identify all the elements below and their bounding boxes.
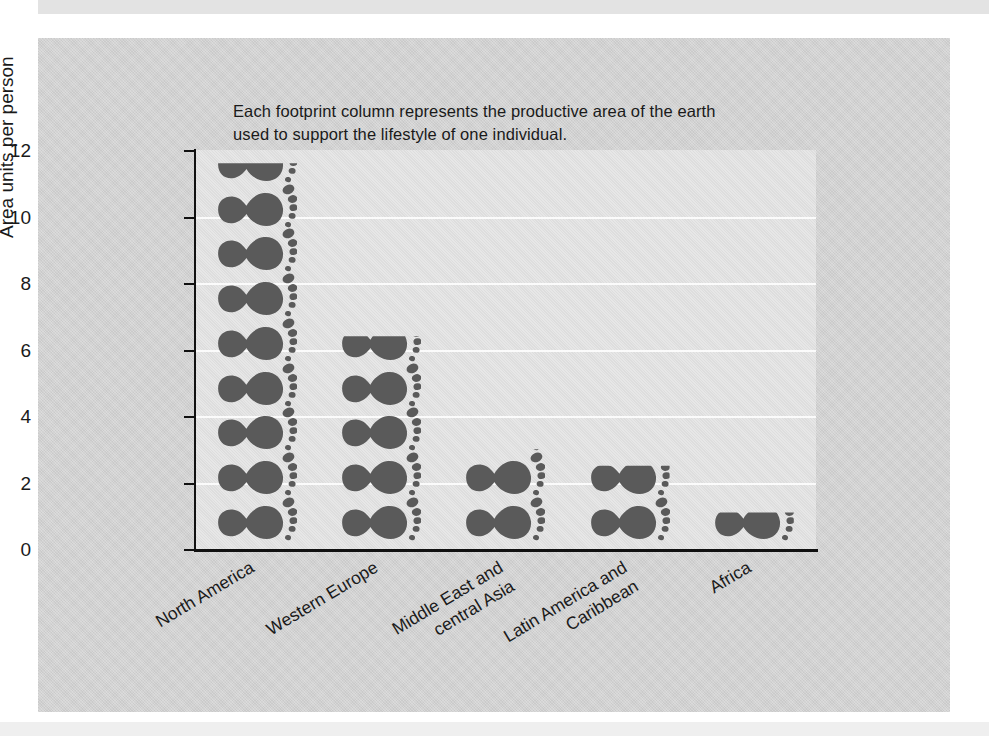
x-axis-line [194, 549, 818, 552]
plot-area [195, 150, 816, 549]
y-tick-label: 4 [20, 406, 38, 428]
footprint-icon [578, 451, 670, 504]
page-root: Each footprint column represents the pro… [0, 0, 989, 736]
figure-panel: Each footprint column represents the pro… [38, 38, 950, 712]
footprint-column [205, 150, 297, 549]
footprint-icon [453, 406, 545, 459]
footprint-column [578, 150, 670, 549]
y-tick-label: 0 [20, 539, 38, 561]
footprint-icon [702, 496, 794, 549]
footprint-chart: Area units per person 024681012 North Am… [38, 38, 950, 712]
top-decorative-band [38, 0, 989, 14]
footprint-column [702, 150, 794, 549]
footprint-column [329, 150, 421, 549]
footprint-icon [329, 317, 421, 370]
y-tick-label: 12 [10, 140, 38, 162]
footprint-column [453, 150, 545, 549]
y-tick-label: 6 [20, 340, 38, 362]
y-tick-label: 8 [20, 273, 38, 295]
y-tick-label: 10 [10, 207, 38, 229]
y-tick-label: 2 [20, 473, 38, 495]
footprint-icon [205, 150, 297, 191]
